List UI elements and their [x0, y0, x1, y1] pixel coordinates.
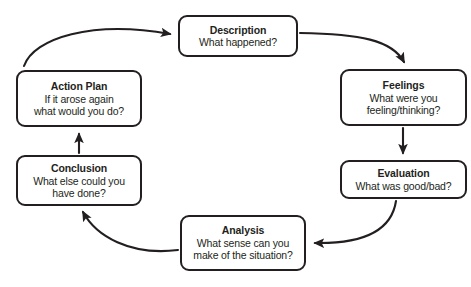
figure-caption-cropped — [6, 277, 306, 287]
node-feelings-body: What were you feeling/thinking? — [367, 92, 440, 116]
node-analysis-body: What sense can you make of the situation… — [193, 237, 292, 261]
node-description-body: What happened? — [199, 36, 277, 48]
node-evaluation-line-1: What was good/bad? — [356, 180, 452, 192]
node-action-plan-line-2: what would you do? — [34, 105, 124, 117]
node-conclusion-line-1: What else could you — [33, 175, 125, 187]
node-action-plan-line-1: If it arose again — [34, 93, 124, 105]
node-analysis: Analysis What sense can you make of the … — [180, 215, 306, 271]
node-conclusion-title: Conclusion — [51, 162, 107, 174]
node-conclusion: Conclusion What else could you have done… — [16, 155, 142, 206]
node-analysis-title: Analysis — [222, 224, 264, 236]
node-evaluation: Evaluation What was good/bad? — [340, 160, 467, 199]
gibbs-reflective-cycle-diagram: Description What happened? Feelings What… — [0, 0, 471, 287]
node-conclusion-line-2: have done? — [33, 187, 125, 199]
node-description-title: Description — [210, 24, 267, 36]
node-feelings-line-2: feeling/thinking? — [367, 104, 440, 116]
connector-analysis-to-conclusion — [83, 212, 178, 251]
connector-actionplan-to-description — [24, 29, 170, 66]
node-evaluation-body: What was good/bad? — [356, 180, 452, 192]
node-feelings: Feelings What were you feeling/thinking? — [340, 69, 467, 126]
node-conclusion-body: What else could you have done? — [33, 175, 125, 199]
node-action-plan-body: If it arose again what would you do? — [34, 93, 124, 117]
connector-description-to-feelings — [300, 33, 404, 62]
connector-evaluation-to-analysis — [315, 201, 396, 243]
node-analysis-line-1: What sense can you — [193, 237, 292, 249]
node-description: Description What happened? — [178, 15, 298, 57]
node-feelings-title: Feelings — [383, 79, 425, 91]
node-action-plan: Action Plan If it arose again what would… — [16, 70, 142, 127]
node-description-line-1: What happened? — [199, 36, 277, 48]
node-analysis-line-2: make of the situation? — [193, 249, 292, 261]
node-evaluation-title: Evaluation — [377, 167, 429, 179]
node-action-plan-title: Action Plan — [51, 80, 108, 92]
node-feelings-line-1: What were you — [367, 92, 440, 104]
